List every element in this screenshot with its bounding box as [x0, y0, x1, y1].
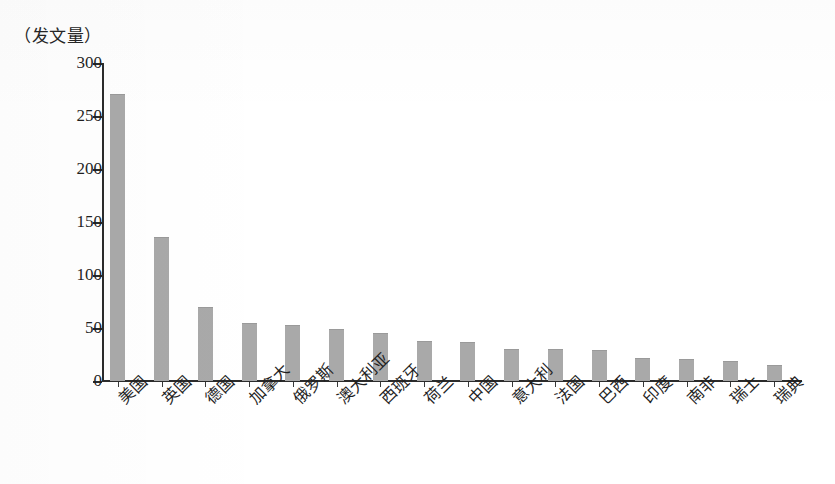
- y-axis-tick-label: 300: [77, 53, 103, 73]
- y-axis-tick-label: 50: [85, 318, 102, 338]
- y-axis-tick-label: 150: [77, 212, 103, 232]
- bar: [767, 365, 782, 381]
- bar: [154, 237, 169, 381]
- bar: [198, 307, 213, 381]
- bar: [635, 358, 650, 381]
- y-axis-tick-label: 200: [77, 159, 103, 179]
- y-axis-tick-label: 0: [94, 371, 103, 391]
- bar: [460, 342, 475, 381]
- bar: [723, 361, 738, 381]
- bar: [504, 349, 519, 381]
- bar: [679, 359, 694, 381]
- y-axis-tick-label: 250: [77, 106, 103, 126]
- y-axis-line: [102, 63, 104, 382]
- plot-area: 050100150200250300: [102, 63, 802, 381]
- y-axis-tick-label: 100: [77, 265, 103, 285]
- bar: [110, 94, 125, 381]
- bar: [242, 323, 257, 381]
- y-axis-unit-caption: （发文量）: [14, 22, 102, 47]
- bar: [592, 350, 607, 381]
- bar-chart-figure: （发文量） 050100150200250300 美国英国德国加拿大俄罗斯澳大利…: [0, 0, 835, 484]
